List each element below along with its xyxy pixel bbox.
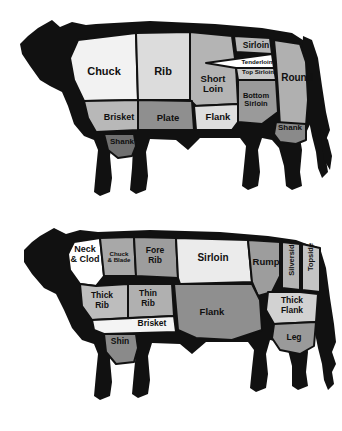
cut-region-top-sirloin[interactable] xyxy=(236,68,276,80)
cut-region-topside[interactable] xyxy=(302,244,320,292)
cut-region-thick-flank[interactable] xyxy=(266,292,318,324)
beef-cuts-figure: ChuckRibShortLoinSirloinTenderloinTop Si… xyxy=(0,0,342,431)
diagram-british-beef-cuts: Neck& ClodChuck& BladeForeRibSirloinRump… xyxy=(0,214,342,414)
cut-region-sirloin-uk[interactable] xyxy=(176,238,252,284)
cut-region-sirloin[interactable] xyxy=(234,36,272,54)
american-cow-svg: ChuckRibShortLoinSirloinTenderloinTop Si… xyxy=(0,0,342,216)
cut-region-round[interactable] xyxy=(274,40,308,126)
cut-region-leg[interactable] xyxy=(272,322,316,354)
cut-region-short-loin[interactable] xyxy=(190,32,238,106)
cut-region-fore-rib[interactable] xyxy=(134,237,178,278)
cut-region-silverside[interactable] xyxy=(282,242,300,290)
diagram-american-beef-cuts: ChuckRibShortLoinSirloinTenderloinTop Si… xyxy=(0,0,342,216)
cut-region-plate[interactable] xyxy=(138,100,194,130)
cut-region-flank[interactable] xyxy=(194,104,238,130)
cut-region-shank-rear[interactable] xyxy=(274,122,306,144)
cut-region-thick-rib[interactable] xyxy=(80,284,128,320)
cut-region-rib[interactable] xyxy=(136,32,190,100)
cut-region-chuck-and-blade[interactable] xyxy=(100,237,136,276)
british-cow-svg: Neck& ClodChuck& BladeForeRibSirloinRump… xyxy=(0,214,342,414)
cut-region-chuck[interactable] xyxy=(70,33,138,101)
cut-region-thin-rib[interactable] xyxy=(128,284,174,318)
cut-region-bottom-sirloin[interactable] xyxy=(238,80,278,124)
cut-region-flank-uk[interactable] xyxy=(174,284,262,340)
cut-region-brisket-uk[interactable] xyxy=(92,316,176,334)
